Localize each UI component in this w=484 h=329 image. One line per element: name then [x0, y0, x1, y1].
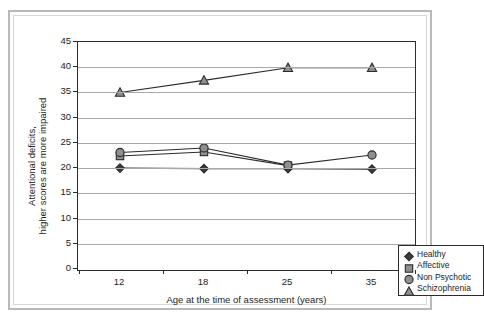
y-axis-tick-label: 20 [46, 162, 71, 172]
legend-label: Affective [417, 260, 449, 270]
x-axis-tick-mark [415, 270, 416, 274]
x-axis-tick-mark [331, 270, 332, 274]
legend-symbol [402, 283, 416, 294]
data-point-circle [116, 148, 124, 156]
series-layer [78, 42, 414, 269]
gridline [78, 118, 415, 119]
y-axis-tick-label: 30 [46, 112, 71, 122]
y-axis-title-line1: Attentional deficits, [26, 66, 37, 266]
y-axis-tick-label: 40 [46, 61, 71, 71]
legend-symbol [402, 248, 416, 259]
legend-label: Non Psychotic [417, 272, 471, 282]
legend-label: Healthy [417, 249, 446, 259]
plot-area: HealthyAffectiveNon PsychoticSchizophren… [77, 41, 416, 271]
legend-item-schizophrenia[interactable]: Schizophrenia [402, 283, 480, 295]
legend-item-healthy[interactable]: Healthy [402, 248, 480, 260]
gridline [78, 193, 415, 194]
legend-label: Schizophrenia [417, 283, 471, 293]
y-axis-tick-label: 0 [46, 263, 71, 273]
x-axis-tick-label: 18 [183, 277, 223, 287]
legend: HealthyAffectiveNon PsychoticSchizophren… [398, 245, 484, 296]
x-axis-tick-mark [163, 270, 164, 274]
y-axis-tick-label: 35 [46, 86, 71, 96]
gridline [78, 168, 415, 169]
series-line [120, 68, 372, 93]
gridline [78, 67, 415, 68]
y-axis-title-line2: higher scores are more impaired [37, 66, 48, 266]
x-axis-tick-label: 35 [351, 277, 391, 287]
x-axis-tick-label: 25 [267, 277, 307, 287]
x-axis-tick-mark [247, 270, 248, 274]
y-axis-tick-label: 5 [46, 238, 71, 248]
x-axis-tick-mark [79, 270, 80, 274]
data-point-circle [200, 144, 208, 152]
data-point-circle [368, 151, 376, 159]
y-axis-tick-label: 45 [46, 36, 71, 46]
gridline [78, 219, 415, 220]
series-line [120, 148, 372, 165]
x-axis-title: Age at the time of assessment (years) [77, 294, 416, 305]
y-axis-tick-label: 10 [46, 213, 71, 223]
data-point-diamond [368, 165, 377, 174]
y-axis-title: Attentional deficits, higher scores are … [26, 66, 48, 266]
gridline [78, 244, 415, 245]
gridline [78, 92, 415, 93]
y-axis-tick-label: 25 [46, 137, 71, 147]
y-axis-tick-label: 15 [46, 187, 71, 197]
gridline [78, 143, 415, 144]
x-axis-tick-label: 12 [99, 277, 139, 287]
